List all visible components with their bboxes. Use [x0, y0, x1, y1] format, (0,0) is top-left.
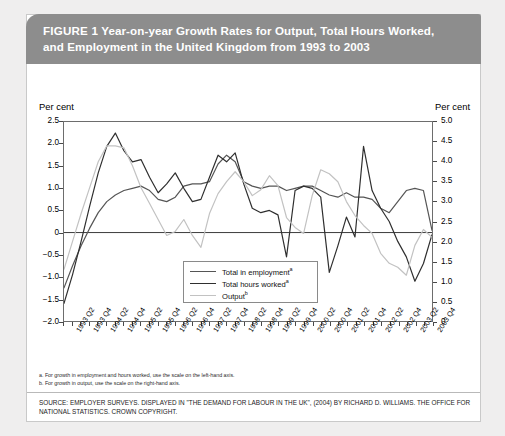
source-note: SOURCE: EMPLOYER SURVEYS. DISPLAYED IN "…	[39, 398, 471, 416]
legend-item-hours: Total hours workeda	[190, 278, 317, 289]
left-axis-tick-label: 2.0	[29, 138, 59, 147]
right-axis-tick-mark	[433, 222, 437, 223]
left-axis-tick-label: 1.5	[29, 161, 59, 170]
footnote-b: b. For growth in output, use the scale o…	[39, 379, 469, 387]
figure-card: FIGURE 1 Year-on-year Growth Rates for O…	[26, 14, 481, 422]
right-axis-tick-label: 2.0	[441, 237, 471, 246]
left-axis-tick-label: 0	[29, 228, 59, 237]
figure-title-line-1: FIGURE 1 Year-on-year Growth Rates for O…	[43, 23, 465, 39]
right-axis-tick-label: 0.5	[441, 297, 471, 306]
right-axis-tick-label: 3.5	[441, 176, 471, 185]
legend-swatch-hours	[190, 283, 216, 284]
left-axis-tick-label: 1.0	[29, 183, 59, 192]
left-axis-tick-label: −1.5	[29, 295, 59, 304]
right-axis-tick-label: 5.0	[441, 116, 471, 125]
left-axis-tick-label: −0.5	[29, 250, 59, 259]
legend-item-output: Outputb	[190, 290, 317, 301]
right-axis-unit-label: Per cent	[435, 101, 470, 112]
right-axis-tick-label: 4.5	[441, 136, 471, 145]
right-axis-tick-label: 1.5	[441, 257, 471, 266]
right-axis-tick-mark	[433, 181, 437, 182]
legend-label-output: Outputb	[222, 290, 248, 301]
right-axis-tick-mark	[433, 302, 437, 303]
right-axis-tick-label: 4.0	[441, 156, 471, 165]
source-divider	[27, 392, 480, 393]
left-axis-tick-label: −1.0	[29, 272, 59, 281]
legend-swatch-employment	[190, 271, 216, 272]
right-axis-tick-label: 2.5	[441, 217, 471, 226]
chart-body: Per cent Per cent −2.0−1.5−1.0−0.500.51.…	[27, 65, 480, 371]
figure-header: FIGURE 1 Year-on-year Growth Rates for O…	[26, 14, 481, 64]
series-line-output	[64, 146, 432, 275]
right-axis-tick-mark	[433, 282, 437, 283]
right-axis-tick-label: 1.0	[441, 277, 471, 286]
right-axis-tick-mark	[433, 161, 437, 162]
right-axis-tick-label: 3.0	[441, 196, 471, 205]
right-axis-tick-mark	[433, 242, 437, 243]
right-axis-tick-mark	[433, 121, 437, 122]
figure-title-line-2: and Employment in the United Kingdom fro…	[43, 39, 465, 55]
legend-label-employment: Total in employmenta	[222, 266, 293, 277]
legend-swatch-output	[190, 295, 216, 296]
legend-item-employment: Total in employmenta	[190, 266, 317, 277]
footnotes: a. For growth in employment and hours wo…	[39, 371, 469, 387]
left-axis-unit-label: Per cent	[39, 101, 74, 112]
right-axis-tick-mark	[433, 262, 437, 263]
chart-legend: Total in employmenta Total hours workeda…	[183, 261, 318, 303]
footnote-a: a. For growth in employment and hours wo…	[39, 371, 469, 379]
legend-label-hours: Total hours workeda	[222, 278, 289, 289]
left-axis-tick-label: 2.5	[29, 116, 59, 125]
right-axis-tick-mark	[433, 141, 437, 142]
left-axis-tick-label: 0.5	[29, 205, 59, 214]
x-axis-labels: 1993 Q21993 Q41994 Q21994 Q41995 Q21995 …	[27, 323, 480, 371]
figure-title-text-1: Year-on-year Growth Rates for Output, To…	[101, 24, 434, 37]
figure-label: FIGURE 1	[43, 24, 98, 37]
right-axis-tick-mark	[433, 201, 437, 202]
